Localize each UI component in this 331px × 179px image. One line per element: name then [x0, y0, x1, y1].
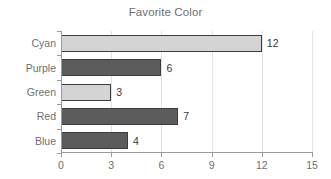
y-axis-tick — [57, 153, 61, 154]
bar[interactable] — [61, 108, 178, 125]
y-axis-category-label: Red — [1, 111, 56, 122]
x-axis-tick — [61, 153, 62, 157]
plot-area: 126374 — [61, 31, 312, 153]
y-axis-category-label: Green — [1, 87, 56, 98]
bar-value-label: 3 — [116, 87, 122, 98]
y-axis-tick — [57, 55, 61, 56]
x-axis-tick-label: 3 — [96, 160, 126, 171]
x-axis-line — [61, 152, 313, 153]
y-axis-tick — [57, 31, 61, 32]
x-axis-tick-label: 9 — [197, 160, 227, 171]
x-axis-tick — [161, 153, 162, 157]
bar[interactable] — [61, 84, 111, 101]
y-axis-tick — [57, 104, 61, 105]
y-axis-tick — [57, 129, 61, 130]
y-axis-category-label: Cyan — [1, 38, 56, 49]
bar-value-label: 4 — [133, 136, 139, 147]
x-axis-tick-label: 15 — [297, 160, 327, 171]
bar-value-label: 7 — [183, 111, 189, 122]
y-axis-line — [61, 31, 62, 153]
x-axis-tick-label: 12 — [247, 160, 277, 171]
gridline — [262, 31, 263, 153]
x-axis-tick — [111, 153, 112, 157]
x-axis-tick-label: 0 — [46, 160, 76, 171]
x-axis-tick — [312, 153, 313, 157]
bar[interactable] — [61, 35, 262, 52]
y-axis-category-labels: CyanPurpleGreenRedBlue — [0, 0, 56, 179]
gridline — [312, 31, 313, 153]
y-axis-category-label: Blue — [1, 136, 56, 147]
bar-value-label: 6 — [166, 63, 172, 74]
y-axis-tick — [57, 80, 61, 81]
bar[interactable] — [61, 132, 128, 149]
y-axis-category-label: Purple — [1, 63, 56, 74]
bar-chart: Favorite Color CyanPurpleGreenRedBlue 12… — [0, 0, 331, 179]
x-axis-tick — [212, 153, 213, 157]
bar-value-label: 12 — [267, 38, 279, 49]
x-axis-tick — [262, 153, 263, 157]
bar[interactable] — [61, 59, 161, 76]
x-axis-tick-label: 6 — [146, 160, 176, 171]
